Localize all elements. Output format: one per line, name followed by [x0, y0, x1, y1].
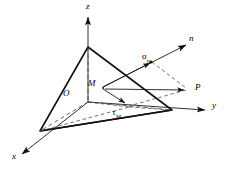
shear-stress-label: τM [112, 108, 121, 119]
point-label-M: M [88, 79, 96, 88]
figure-canvas [0, 0, 227, 175]
tetrahedron-base-edge [40, 110, 172, 131]
axis-label-y: y [212, 101, 216, 110]
point-label-origin: O [63, 89, 70, 98]
axis-label-n: n [189, 34, 194, 43]
axis-label-z: z [86, 2, 90, 11]
traction-vector-MP [105, 89, 184, 90]
shear-stress-vector [103, 89, 125, 103]
axis-y [88, 102, 205, 110]
tau-subscript: M [116, 114, 121, 120]
stress-tetrahedron-figure: z y x n O M P σn τM [0, 0, 227, 175]
axis-label-x: x [12, 152, 16, 161]
sigma-subscript: n [147, 58, 150, 64]
point-label-P: P [195, 83, 201, 92]
normal-stress-vector [103, 63, 150, 87]
normal-stress-label: σn [142, 52, 150, 63]
